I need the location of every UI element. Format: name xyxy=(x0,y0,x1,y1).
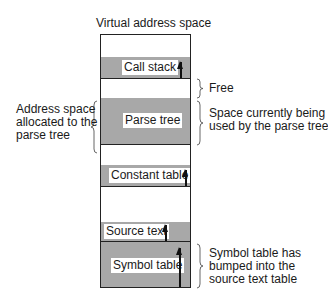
segment-call-stack: Call stack xyxy=(101,57,190,79)
address-space-box: Call stack Parse tree Constant table Sou… xyxy=(100,34,191,288)
segment-label-parse-tree: Parse tree xyxy=(123,113,182,128)
arrow-up-icon xyxy=(185,170,187,186)
segment-parse-tree: Parse tree xyxy=(101,98,190,145)
brace-right-icon xyxy=(196,78,206,99)
segment-label-call-stack: Call stack xyxy=(122,60,178,75)
annotation-allocated-to-parse-tree: Address space allocated to the parse tre… xyxy=(16,103,97,142)
segment-label-constant-table: Constant table xyxy=(109,168,190,183)
brace-right-icon xyxy=(196,243,206,289)
segment-label-source-text: Source text xyxy=(104,224,169,239)
annotation-symbol-table-bumped: Symbol table has bumped into the source … xyxy=(209,247,301,286)
annotation-free: Free xyxy=(209,82,234,95)
arrow-up-icon xyxy=(165,225,167,241)
segment-constant-table: Constant table xyxy=(101,165,190,187)
arrow-up-icon xyxy=(179,248,181,287)
segment-label-symbol-table: Symbol table xyxy=(111,258,184,273)
annotation-used-by-parse-tree: Space currently being used by the parse … xyxy=(209,107,328,133)
brace-right-icon xyxy=(196,100,206,146)
segment-symbol-table: Symbol table xyxy=(101,241,190,287)
arrow-up-icon xyxy=(180,62,182,78)
segment-source-text: Source text xyxy=(101,222,190,241)
diagram-title: Virtual address space xyxy=(96,16,211,30)
